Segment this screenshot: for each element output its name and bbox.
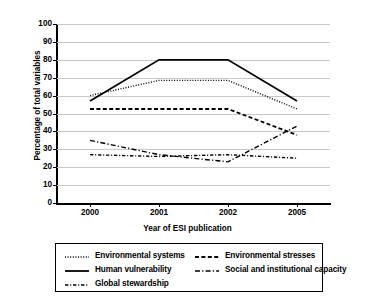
legend-item[interactable]: Environmental stresses <box>194 248 315 262</box>
y-axis-tick-label: 50 <box>28 110 52 118</box>
y-axis-tick-label: 80 <box>28 56 52 64</box>
legend-label: Human vulnerability <box>95 265 171 274</box>
y-axis-tick-label: 0 <box>28 199 52 207</box>
x-axis-tick-label: 2005 <box>267 208 327 217</box>
legend-label: Social and institutional capacity <box>225 265 346 274</box>
y-axis-tick-label: 10 <box>28 181 52 189</box>
x-axis-title: Year of ESI publication <box>0 224 375 233</box>
legend-item[interactable]: Environmental systems <box>64 248 185 262</box>
legend-swatch-icon <box>194 249 220 261</box>
x-axis-tick-label: 2000 <box>60 208 120 217</box>
y-axis-tick-label: 40 <box>28 127 52 135</box>
y-axis-tick-label: 90 <box>28 38 52 46</box>
chart-legend: Environmental systemsEnvironmental stres… <box>55 243 323 292</box>
x-axis-tick-label: 2002 <box>198 208 258 217</box>
legend-item[interactable]: Global stewardship <box>64 276 169 290</box>
chart-figure: Percentage of total variables 1009080706… <box>0 0 375 303</box>
legend-label: Environmental systems <box>95 251 185 260</box>
legend-swatch-icon <box>64 249 90 261</box>
y-axis-tick-label: 60 <box>28 92 52 100</box>
legend-swatch-icon <box>64 277 90 289</box>
legend-item[interactable]: Social and institutional capacity <box>194 262 346 276</box>
y-axis-tick-label: 20 <box>28 163 52 171</box>
legend-label: Environmental stresses <box>225 251 315 260</box>
legend-label: Global stewardship <box>95 279 169 288</box>
y-axis-tick-labels: 1009080706050403020100 <box>24 24 52 204</box>
y-axis-tick-label: 70 <box>28 74 52 82</box>
legend-swatch-icon <box>64 263 90 275</box>
x-axis-tick-label: 2001 <box>129 208 189 217</box>
legend-item[interactable]: Human vulnerability <box>64 262 171 276</box>
y-axis-tick-label: 100 <box>28 20 52 28</box>
y-axis-tick-label: 30 <box>28 145 52 153</box>
x-axis-tick-labels: 2000200120022005 <box>57 0 330 230</box>
legend-swatch-icon <box>194 263 220 275</box>
